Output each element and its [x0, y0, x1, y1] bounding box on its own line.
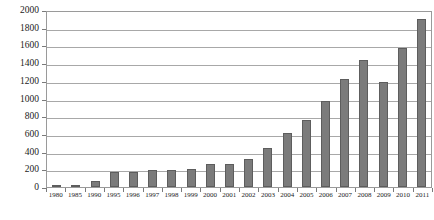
x-axis-tick-label: 1995 — [104, 192, 123, 208]
x-axis-tick — [181, 188, 182, 192]
plot-area — [46, 11, 432, 188]
bar[interactable] — [321, 101, 330, 187]
x-axis-tick-label: 1985 — [65, 192, 84, 208]
x-axis-tick-label: 1996 — [123, 192, 142, 208]
y-axis-tick-label: 1000 — [20, 95, 39, 105]
x-axis-tick-label: 1997 — [142, 192, 161, 208]
bar-slot — [297, 12, 316, 187]
bar[interactable] — [206, 164, 215, 187]
bar[interactable] — [129, 172, 138, 187]
bar[interactable] — [244, 159, 253, 187]
x-axis-tick — [297, 188, 298, 192]
bar-slot — [354, 12, 373, 187]
y-axis-tick-label: 800 — [25, 112, 39, 122]
x-axis-tick-label: 2001 — [220, 192, 239, 208]
x-axis-tick-label: 1980 — [46, 192, 65, 208]
bar-slot — [124, 12, 143, 187]
bar-slot — [85, 12, 104, 187]
bar-slot — [373, 12, 392, 187]
y-axis-tick-label: 0 — [34, 183, 39, 193]
bar-slot — [316, 12, 335, 187]
y-axis-tick-label: 200 — [25, 166, 39, 176]
x-axis-tick — [162, 188, 163, 192]
x-axis-tick — [239, 188, 240, 192]
bar[interactable] — [302, 120, 311, 187]
x-axis: 1980198519901995199619971998199920002001… — [46, 192, 432, 208]
x-axis-tick-label: 2011 — [413, 192, 432, 208]
y-axis-tick-label: 2000 — [20, 6, 39, 16]
x-axis-tick-label: 2005 — [297, 192, 316, 208]
x-axis-tick-label: 2007 — [335, 192, 354, 208]
bar[interactable] — [91, 181, 100, 187]
bar[interactable] — [283, 133, 292, 187]
bar-slot — [335, 12, 354, 187]
x-axis-tick — [393, 188, 394, 192]
bar-slot — [181, 12, 200, 187]
x-axis-tick — [355, 188, 356, 192]
x-axis-tick — [413, 188, 414, 192]
bar[interactable] — [417, 19, 426, 187]
x-axis-tick — [104, 188, 105, 192]
bar-slot — [393, 12, 412, 187]
x-axis-tick — [220, 188, 221, 192]
x-axis-tick — [65, 188, 66, 192]
bar[interactable] — [167, 170, 176, 187]
x-axis-tick-label: 2000 — [200, 192, 219, 208]
x-axis-tick — [336, 188, 337, 192]
bar-slot — [105, 12, 124, 187]
bar[interactable] — [398, 48, 407, 187]
y-axis-tick-label: 1200 — [20, 77, 39, 87]
bar-slot — [239, 12, 258, 187]
bar-slot — [277, 12, 296, 187]
x-axis-tick — [143, 188, 144, 192]
bar[interactable] — [359, 60, 368, 187]
bar[interactable] — [148, 170, 157, 187]
bar[interactable] — [340, 79, 349, 187]
bar-slot — [47, 12, 66, 187]
bar-slot — [162, 12, 181, 187]
x-axis-tick — [374, 188, 375, 192]
y-axis: 0200400600800100012001400160018002000 — [0, 0, 42, 220]
y-axis-tick-label: 1800 — [20, 24, 39, 34]
bar-slot — [412, 12, 431, 187]
bar-slot — [258, 12, 277, 187]
bar[interactable] — [379, 82, 388, 187]
x-axis-tick — [123, 188, 124, 192]
x-axis-tick-label: 2009 — [374, 192, 393, 208]
x-axis-tick — [85, 188, 86, 192]
x-axis-tick-label: 2002 — [239, 192, 258, 208]
x-axis-tick-label: 1999 — [181, 192, 200, 208]
bar[interactable] — [110, 172, 119, 187]
bar-slot — [66, 12, 85, 187]
bar-chart: 0200400600800100012001400160018002000 19… — [0, 0, 434, 220]
x-axis-tick-label: 2006 — [316, 192, 335, 208]
bar-slot — [201, 12, 220, 187]
bar[interactable] — [52, 185, 61, 187]
x-axis-tick-label: 1998 — [162, 192, 181, 208]
bar-slot — [143, 12, 162, 187]
y-axis-tick-label: 600 — [25, 130, 39, 140]
bar[interactable] — [187, 169, 196, 187]
y-axis-tick-label: 400 — [25, 148, 39, 158]
x-axis-tick — [432, 188, 433, 192]
y-axis-tick-label: 1600 — [20, 42, 39, 52]
x-axis-tick — [200, 188, 201, 192]
y-axis-tick-label: 1400 — [20, 59, 39, 69]
bar-slot — [220, 12, 239, 187]
x-axis-tick-label: 2004 — [278, 192, 297, 208]
bars-layer — [47, 12, 431, 187]
x-axis-tick — [258, 188, 259, 192]
x-axis-tick — [278, 188, 279, 192]
x-axis-tick — [46, 188, 47, 192]
x-axis-tick-label: 2003 — [258, 192, 277, 208]
bar[interactable] — [225, 164, 234, 187]
bar[interactable] — [71, 185, 80, 187]
x-axis-tick-label: 2010 — [393, 192, 412, 208]
bar[interactable] — [263, 148, 272, 187]
x-axis-tick — [316, 188, 317, 192]
x-axis-tick-label: 1990 — [85, 192, 104, 208]
x-axis-tick-label: 2008 — [355, 192, 374, 208]
